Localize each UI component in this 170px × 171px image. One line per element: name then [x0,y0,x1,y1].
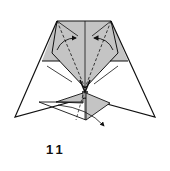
step-number: 11 [46,143,66,156]
origami-diagram [0,0,170,171]
